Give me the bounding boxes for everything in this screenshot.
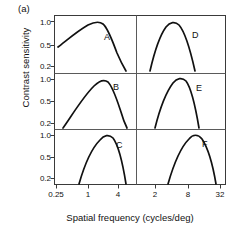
curve-e bbox=[155, 79, 199, 128]
curve-c bbox=[79, 136, 126, 184]
y-tick-marks bbox=[51, 22, 55, 179]
curve-b bbox=[63, 81, 127, 128]
figure-container: (a) Contrast sensitivity Spatial frequen… bbox=[0, 0, 240, 235]
x-tick-marks bbox=[57, 185, 221, 189]
curve-a bbox=[58, 22, 126, 71]
plot-frame bbox=[55, 16, 226, 185]
plot-svg bbox=[0, 0, 240, 235]
curve-d bbox=[150, 23, 195, 71]
curve-f bbox=[168, 135, 216, 184]
